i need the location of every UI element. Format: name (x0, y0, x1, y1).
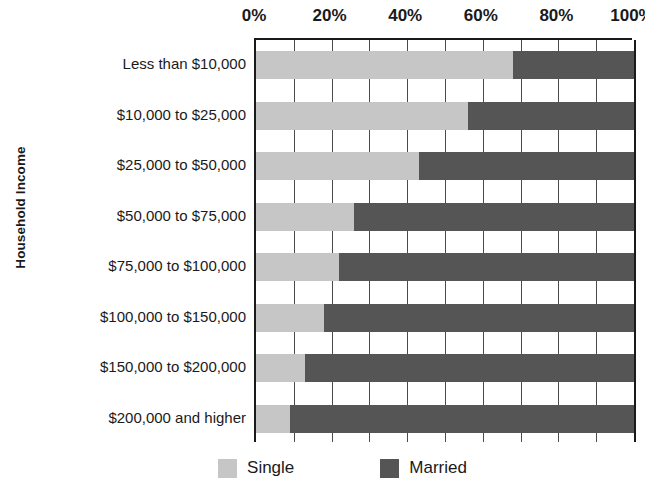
y-category-label: Less than $10,000 (0, 55, 246, 72)
legend-label: Single (247, 458, 294, 478)
bar-row (256, 152, 632, 180)
x-tick-label: 80% (539, 6, 573, 26)
x-tick-label: 0% (242, 6, 267, 26)
bar-segment-single (256, 253, 339, 281)
bar-segment-married (513, 51, 634, 79)
y-category-label: $10,000 to $25,000 (0, 105, 246, 122)
bar-segment-married (468, 102, 634, 130)
bar-segment-single (256, 152, 419, 180)
bar-rows (256, 40, 632, 442)
bar-row (256, 203, 632, 231)
bar-segment-married (419, 152, 634, 180)
y-category-label: $200,000 and higher (0, 408, 246, 425)
plot-area (254, 38, 632, 442)
y-category-label: $25,000 to $50,000 (0, 156, 246, 173)
y-category-label: $150,000 to $200,000 (0, 358, 246, 375)
bar-segment-married (305, 354, 634, 382)
gridline (634, 40, 636, 442)
bar-segment-single (256, 405, 290, 433)
chart-legend: SingleMarried (0, 458, 645, 478)
bar-segment-married (354, 203, 634, 231)
bar-segment-single (256, 102, 468, 130)
bar-row (256, 102, 632, 130)
bar-segment-married (324, 304, 634, 332)
bar-segment-single (256, 51, 513, 79)
y-category-label: $75,000 to $100,000 (0, 257, 246, 274)
x-axis-tick-labels: 0%20%40%60%80%100% (254, 6, 632, 34)
x-tick-label: 60% (464, 6, 498, 26)
x-tick-label: 20% (313, 6, 347, 26)
y-axis-category-labels: Less than $10,000$10,000 to $25,000$25,0… (0, 38, 246, 442)
legend-item[interactable]: Married (380, 458, 467, 478)
x-tick-label: 40% (388, 6, 422, 26)
bar-row (256, 405, 632, 433)
x-tick-label: 100% (610, 6, 645, 26)
legend-swatch-icon (380, 459, 399, 478)
bar-segment-single (256, 203, 354, 231)
bar-segment-single (256, 354, 305, 382)
bar-row (256, 51, 632, 79)
bar-row (256, 253, 632, 281)
bar-segment-married (290, 405, 634, 433)
bar-segment-single (256, 304, 324, 332)
bar-row (256, 354, 632, 382)
legend-swatch-icon (218, 459, 237, 478)
bar-row (256, 304, 632, 332)
y-category-label: $100,000 to $150,000 (0, 307, 246, 324)
legend-item[interactable]: Single (218, 458, 294, 478)
stacked-bar-chart: Household Income 0%20%40%60%80%100% Less… (0, 0, 645, 497)
bar-segment-married (339, 253, 634, 281)
legend-label: Married (409, 458, 467, 478)
y-category-label: $50,000 to $75,000 (0, 206, 246, 223)
